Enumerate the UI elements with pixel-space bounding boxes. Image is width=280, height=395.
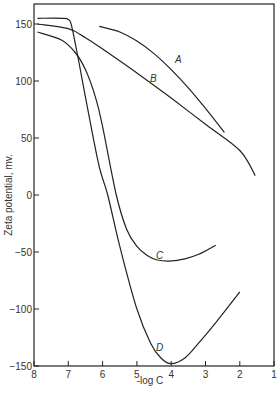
x-tick-label: 1 [271, 369, 277, 380]
x-axis-title: -log C [137, 375, 164, 386]
plot-frame [34, 4, 274, 366]
curve-label-b: B [150, 73, 157, 84]
x-tick-label: 8 [31, 369, 37, 380]
x-tick-label: 3 [203, 369, 209, 380]
y-tick-label: −100 [9, 304, 32, 315]
x-tick-label: 4 [168, 369, 174, 380]
y-tick-label: −150 [9, 361, 32, 372]
x-tick-label: 7 [66, 369, 72, 380]
y-tick-label: 100 [15, 76, 32, 87]
curves [37, 18, 255, 363]
y-tick-label: −50 [15, 247, 32, 258]
y-tick-label: 50 [21, 133, 33, 144]
curve-label-a: A [174, 54, 182, 65]
curve-label-c: C [156, 250, 164, 261]
x-tick-label: 6 [100, 369, 106, 380]
y-axis-title: Zeta potential, mv. [3, 154, 14, 236]
x-tick-label: 2 [237, 369, 243, 380]
zeta-potential-chart: 150100500−50−100−150 87654321 A B C D -l… [0, 0, 280, 395]
curve-d [37, 18, 239, 363]
y-tick-label: 150 [15, 19, 32, 30]
curve-label-d: D [156, 342, 163, 353]
curve-a [99, 26, 224, 132]
y-tick-label: 0 [26, 190, 32, 201]
